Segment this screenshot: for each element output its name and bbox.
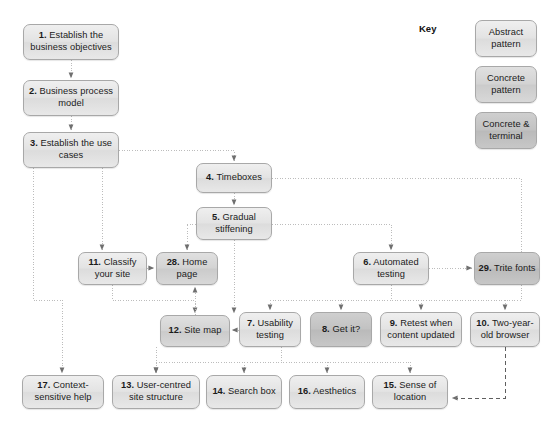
pattern-node-n6-label: Automated testing xyxy=(373,257,418,279)
key-swatch-abstract-pattern: Abstract pattern xyxy=(475,20,537,57)
pattern-node-n8-label: Get it? xyxy=(332,324,360,334)
pattern-node-n8-text: 8. Get it? xyxy=(322,324,360,336)
pattern-node-n10-number: 10. xyxy=(476,318,489,328)
pattern-node-n3-number: 3. xyxy=(30,138,38,148)
pattern-node-n17-number: 17. xyxy=(37,380,50,390)
pattern-node-n11-label: Classify your site xyxy=(95,257,137,279)
pattern-node-n29[interactable]: 29. Trite fonts xyxy=(474,252,540,285)
pattern-node-n3[interactable]: 3. Establish the use cases xyxy=(23,132,119,168)
pattern-node-n2-text: 2. Business process model xyxy=(27,86,115,109)
pattern-node-n16-label: Aesthetics xyxy=(313,386,356,396)
pattern-node-n13-text: 13. User-centred site structure xyxy=(116,380,196,403)
pattern-node-n7-number: 7. xyxy=(247,318,255,328)
pattern-node-n9-text: 9. Retest when content updated xyxy=(384,318,458,341)
pattern-node-n8[interactable]: 8. Get it? xyxy=(310,312,372,347)
pattern-node-n15-text: 15. Sense of location xyxy=(376,380,444,403)
pattern-node-n7-label: Usability testing xyxy=(256,318,293,340)
pattern-node-n14[interactable]: 14. Search box xyxy=(206,375,282,409)
pattern-node-n11-number: 11. xyxy=(88,257,101,267)
pattern-node-n14-text: 14. Search box xyxy=(212,386,275,398)
pattern-node-n6-text: 6. Automated testing xyxy=(357,257,425,280)
pattern-node-n12-number: 12. xyxy=(169,325,182,335)
pattern-node-n13[interactable]: 13. User-centred site structure xyxy=(112,375,200,409)
key-swatch-concrete-terminal: Concrete & terminal xyxy=(475,112,537,149)
pattern-node-n29-number: 29. xyxy=(478,263,491,273)
pattern-node-n13-number: 13. xyxy=(121,380,134,390)
pattern-node-n12[interactable]: 12. Site map xyxy=(160,315,230,347)
pattern-node-n12-text: 12. Site map xyxy=(169,325,222,337)
pattern-node-n16[interactable]: 16. Aesthetics xyxy=(289,375,365,409)
pattern-node-n12-label: Site map xyxy=(184,325,221,335)
pattern-node-n10-label: Two-year-old browser xyxy=(481,318,534,340)
pattern-node-n9-number: 9. xyxy=(390,318,398,328)
pattern-node-n8-number: 8. xyxy=(322,324,330,334)
pattern-node-n15-number: 15. xyxy=(384,380,397,390)
pattern-node-n5-label: Gradual stiffening xyxy=(215,212,256,234)
pattern-node-n14-number: 14. xyxy=(212,386,225,396)
pattern-node-n9-label: Retest when content updated xyxy=(387,318,454,340)
pattern-node-n3-label: Establish the use cases xyxy=(40,138,112,160)
key-swatch-concrete-pattern-label: Concrete pattern xyxy=(479,73,533,96)
pattern-node-n6[interactable]: 6. Automated testing xyxy=(353,252,429,285)
pattern-node-n4[interactable]: 4. Timeboxes xyxy=(196,163,272,193)
pattern-node-n13-label: User-centred site structure xyxy=(129,380,191,402)
pattern-node-n1[interactable]: 1. Establish the business objectives xyxy=(23,24,119,60)
pattern-node-n29-label: Trite fonts xyxy=(494,263,536,273)
pattern-node-n14-label: Search box xyxy=(228,386,276,396)
pattern-node-n29-text: 29. Trite fonts xyxy=(478,263,535,275)
key-label: Key xyxy=(419,23,436,34)
pattern-node-n9[interactable]: 9. Retest when content updated xyxy=(380,312,462,347)
pattern-node-n15[interactable]: 15. Sense of location xyxy=(372,375,448,409)
pattern-node-n7[interactable]: 7. Usability testing xyxy=(239,312,301,347)
pattern-node-n2-number: 2. xyxy=(29,86,37,96)
pattern-node-n1-number: 1. xyxy=(39,30,47,40)
pattern-node-n28[interactable]: 28. Home page xyxy=(156,252,218,285)
pattern-node-n28-number: 28. xyxy=(167,257,180,267)
pattern-node-n11-text: 11. Classify your site xyxy=(82,257,143,280)
pattern-node-n7-text: 7. Usability testing xyxy=(243,318,297,341)
key-swatch-abstract-pattern-label: Abstract pattern xyxy=(479,27,533,50)
pattern-node-n2-label: Business process model xyxy=(39,86,113,108)
key-swatch-concrete-pattern: Concrete pattern xyxy=(475,66,537,103)
pattern-node-n3-text: 3. Establish the use cases xyxy=(27,138,115,161)
pattern-node-n4-number: 4. xyxy=(206,172,214,182)
pattern-node-n4-text: 4. Timeboxes xyxy=(206,172,262,184)
pattern-node-n17[interactable]: 17. Context-sensitive help xyxy=(22,375,104,409)
diagram-canvas: Key Abstract pattern Concrete pattern Co… xyxy=(0,0,560,447)
pattern-node-n4-label: Timeboxes xyxy=(216,172,262,182)
key-swatch-concrete-terminal-label: Concrete & terminal xyxy=(479,119,533,142)
pattern-node-n5-text: 5. Gradual stiffening xyxy=(200,212,268,235)
pattern-node-n6-number: 6. xyxy=(363,257,371,267)
pattern-node-n28-label: Home page xyxy=(177,257,208,279)
pattern-node-n5[interactable]: 5. Gradual stiffening xyxy=(196,207,272,240)
pattern-node-n10-text: 10. Two-year-old browser xyxy=(474,318,536,341)
pattern-node-n16-number: 16. xyxy=(298,386,311,396)
pattern-node-n1-text: 1. Establish the business objectives xyxy=(27,30,115,53)
pattern-node-n28-text: 28. Home page xyxy=(160,257,214,280)
pattern-node-n10[interactable]: 10. Two-year-old browser xyxy=(470,312,540,347)
pattern-node-n11[interactable]: 11. Classify your site xyxy=(78,252,147,285)
pattern-node-n5-number: 5. xyxy=(212,212,220,222)
pattern-node-n15-label: Sense of location xyxy=(394,380,437,402)
pattern-node-n16-text: 16. Aesthetics xyxy=(298,386,357,398)
pattern-node-n17-text: 17. Context-sensitive help xyxy=(26,380,100,403)
pattern-node-n2[interactable]: 2. Business process model xyxy=(23,80,119,116)
